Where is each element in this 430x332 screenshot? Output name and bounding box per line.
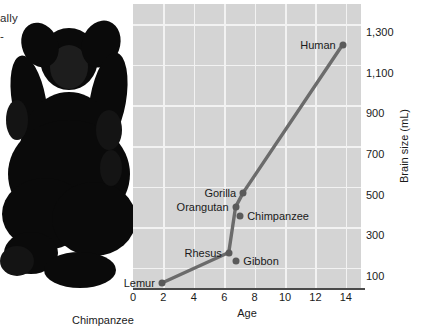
data-point-marker <box>158 279 165 286</box>
y-axis-tick-label: 900 <box>366 107 384 119</box>
chimpanzee-photo: ally - <box>0 0 135 310</box>
x-axis-tick-label: 4 <box>191 291 197 303</box>
data-point-marker <box>225 249 232 256</box>
x-axis-tick-label: 0 <box>130 291 136 303</box>
y-axis-tick-label: 100 <box>366 270 384 282</box>
data-point-marker <box>339 41 346 48</box>
data-point-label: Rhesus <box>184 247 221 259</box>
y-axis-tick-label: 1,100 <box>366 67 394 79</box>
y-axis-tick-label: 300 <box>366 229 384 241</box>
chimpanzee-illustration <box>0 0 135 310</box>
y-axis-tick-label: 500 <box>366 189 384 201</box>
data-point-label: Gibbon <box>243 255 278 267</box>
x-axis-tick-label: 14 <box>340 291 352 303</box>
x-axis-tick-label: 12 <box>309 291 321 303</box>
x-axis-tick-label: 2 <box>160 291 166 303</box>
x-axis-tick-label: 8 <box>252 291 258 303</box>
y-axis-tick-label: 700 <box>366 148 384 160</box>
data-point-marker <box>237 212 244 219</box>
x-axis-line <box>133 288 365 290</box>
x-axis-tick-label: 10 <box>279 291 291 303</box>
figure-root: ally - Chimpanzee Brain size (mL) Age 02… <box>0 0 430 332</box>
y-axis-tick-label: 1,300 <box>366 26 394 38</box>
data-point-marker <box>232 203 239 210</box>
x-axis-label: Age <box>237 307 257 319</box>
data-point-marker <box>233 257 240 264</box>
x-axis-tick-label: 6 <box>221 291 227 303</box>
fragment-text-line-2: - <box>0 30 4 42</box>
data-point-label: Orangutan <box>177 201 229 213</box>
data-point-label: Chimpanzee <box>247 210 309 222</box>
y-axis-label: Brain size (mL) <box>398 109 410 183</box>
data-point-label: Gorilla <box>204 187 236 199</box>
fragment-text-line-1: ally <box>0 12 18 24</box>
data-point-marker <box>240 189 247 196</box>
photo-caption: Chimpanzee <box>72 314 134 326</box>
data-point-label: Lemur <box>124 277 155 289</box>
data-point-label: Human <box>300 39 335 51</box>
